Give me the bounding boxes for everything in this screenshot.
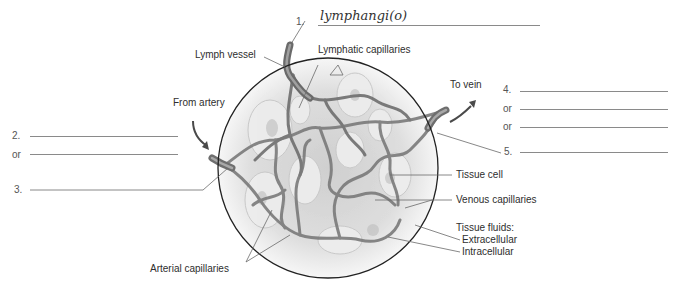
blank-4-number: 4. xyxy=(503,85,511,95)
blank-1-line[interactable] xyxy=(318,25,540,26)
blank-2-line[interactable] xyxy=(30,136,178,137)
label-lymph-vessel: Lymph vessel xyxy=(195,50,256,60)
blank-4-alt2-line[interactable] xyxy=(520,127,668,128)
blank-4-line[interactable] xyxy=(520,91,668,92)
label-from-artery: From artery xyxy=(173,98,225,108)
blank-3-number: 3. xyxy=(14,185,22,195)
from-artery-arrow xyxy=(193,121,209,150)
blank-5-line[interactable] xyxy=(520,152,668,153)
leader-extracellular xyxy=(415,225,460,240)
label-venous-capillaries: Venous capillaries xyxy=(456,195,537,205)
blank-4-alt2-number: or xyxy=(503,122,512,132)
label-tissue-cell: Tissue cell xyxy=(456,170,503,180)
leader-5 xyxy=(437,133,501,153)
label-intracellular: Intracellular xyxy=(462,247,514,257)
blank-2-number: 2. xyxy=(12,131,20,141)
label-arterial-capillaries: Arterial capillaries xyxy=(150,264,229,274)
label-extracellular: Extracellular xyxy=(462,235,517,245)
blank-5-number: 5. xyxy=(504,147,512,157)
label-tissue-fluids: Tissue fluids: xyxy=(456,223,514,233)
blank-4-alt1-number: or xyxy=(503,104,512,114)
vein-exit xyxy=(428,110,446,128)
label-lymphatic-capillaries: Lymphatic capillaries xyxy=(318,45,410,55)
blank-2-alt-line[interactable] xyxy=(30,154,178,155)
label-to-vein: To vein xyxy=(450,80,482,90)
blank-1-answer[interactable]: lymphangi(o) xyxy=(320,9,407,22)
leader-lymph-vessel xyxy=(264,57,285,67)
leader-3 xyxy=(30,168,228,190)
blank-4-alt1-line[interactable] xyxy=(520,109,668,110)
tissue-region xyxy=(218,58,438,278)
to-vein-arrow xyxy=(450,100,476,122)
blank-1-number: 1. xyxy=(296,17,304,27)
blank-2-alt-number: or xyxy=(12,150,21,160)
